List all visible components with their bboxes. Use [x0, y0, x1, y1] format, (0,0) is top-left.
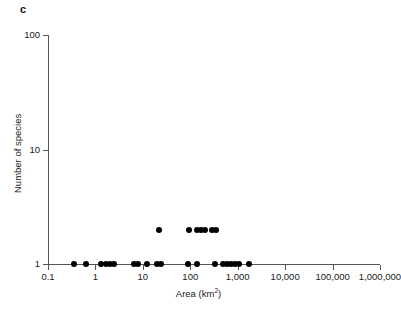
data-point — [194, 261, 200, 267]
x-tick-mark — [48, 265, 49, 270]
x-axis-title-base: Area (km — [176, 288, 215, 299]
data-point — [246, 261, 252, 267]
data-point — [236, 261, 242, 267]
y-tick-label: 1 — [35, 259, 40, 269]
x-tick-label: 0.1 — [41, 272, 54, 282]
data-point — [186, 227, 192, 233]
data-point — [212, 261, 218, 267]
x-tick-label: 100,000 — [315, 272, 349, 282]
data-point — [83, 261, 89, 267]
x-tick-mark — [285, 265, 286, 270]
data-point — [202, 227, 208, 233]
panel-label: c — [20, 4, 26, 15]
x-tick-label: 100 — [182, 272, 198, 282]
data-point — [144, 261, 150, 267]
x-tick-mark — [380, 265, 381, 270]
x-tick-label: 1,000 — [226, 272, 250, 282]
data-point — [158, 261, 164, 267]
x-axis-title: Area (km2) — [0, 289, 397, 299]
y-axis-title: Number of species — [13, 114, 23, 193]
x-tick-mark — [95, 265, 96, 270]
data-point — [156, 227, 162, 233]
x-tick-mark — [333, 265, 334, 270]
data-point — [213, 227, 219, 233]
y-tick-label: 10 — [29, 145, 40, 155]
x-tick-label: 1,000,000 — [359, 272, 401, 282]
x-tick-label: 10,000 — [271, 272, 300, 282]
data-point — [71, 261, 77, 267]
y-tick-label: 100 — [24, 30, 40, 40]
data-point — [135, 261, 141, 267]
plot-area — [48, 35, 380, 264]
x-axis-title-close: ) — [218, 288, 221, 299]
data-point — [111, 261, 117, 267]
x-tick-label: 10 — [138, 272, 149, 282]
x-tick-label: 1 — [93, 272, 98, 282]
